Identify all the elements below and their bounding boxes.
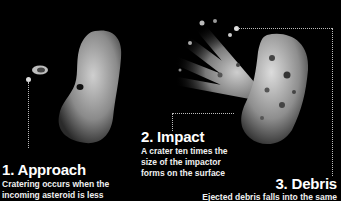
stage-2-description-line-1: A crater ten times the (141, 146, 228, 156)
stage-3-title: 3. Debris (275, 176, 337, 192)
asteroid-cratering-diagram: 1. Approach Cratering occurs when the in… (0, 0, 341, 201)
leader-line-1 (28, 82, 29, 148)
stage-1-description-line-2: incoming asteroid is less (2, 190, 104, 200)
stage-3-description-line-1: Ejected debris falls into the same (202, 192, 337, 201)
leader-line-3-horizontal (238, 28, 332, 29)
stage-1-description-line-1: Cratering occurs when the (2, 179, 109, 189)
stage-1-title: 1. Approach (2, 162, 86, 178)
impactor-illustration (30, 64, 50, 76)
leader-line-3-vertical (332, 28, 333, 176)
stage-2-title: 2. Impact (141, 129, 204, 145)
leader-line-2-horizontal (172, 113, 234, 114)
asteroid-approach-illustration (55, 28, 125, 148)
stage-2-description-line-3: forms on the surface (141, 168, 225, 178)
stage-2-description-line-2: size of the impactor (141, 157, 221, 167)
asteroid-debris-illustration (232, 30, 317, 148)
